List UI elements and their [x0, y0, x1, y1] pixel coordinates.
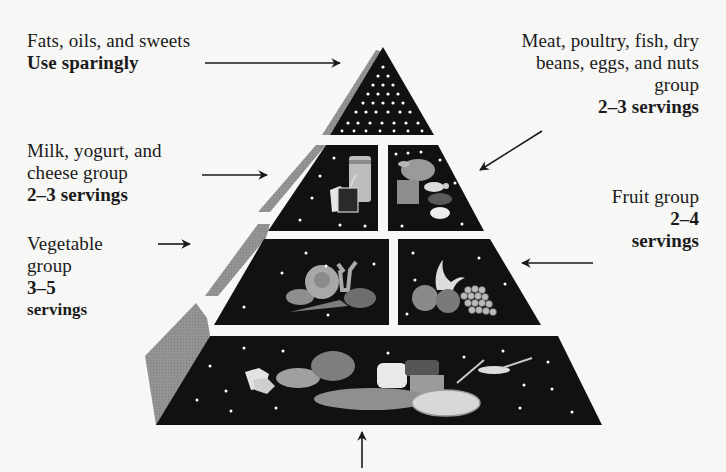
label-milk-serving: 2–3 servings	[27, 184, 162, 206]
label-milk: Milk, yogurt, and cheese group 2–3 servi…	[27, 140, 162, 206]
label-milk-line1: Milk, yogurt, and	[27, 140, 162, 162]
label-meat-line1: Meat, poultry, fish, dry	[522, 30, 699, 52]
label-vegetable-line1: Vegetable	[27, 233, 103, 255]
label-fruit-title: Fruit group	[612, 186, 699, 208]
label-meat-line2: beans, eggs, and nuts	[522, 52, 699, 74]
tier-bread	[156, 336, 602, 425]
label-meat: Meat, poultry, fish, dry beans, eggs, an…	[522, 30, 699, 118]
label-vegetable-serving-unit: servings	[27, 299, 103, 321]
tier-fats	[330, 47, 434, 135]
label-fruit: Fruit group 2–4 servings	[612, 186, 699, 252]
label-meat-serving: 2–3 servings	[522, 96, 699, 118]
label-vegetable: Vegetable group 3–5 servings	[27, 233, 103, 321]
label-vegetable-serving-count: 3–5	[27, 277, 103, 299]
label-fruit-serving-unit: servings	[612, 230, 699, 252]
label-fats-title: Fats, oils, and sweets	[27, 30, 190, 52]
label-vegetable-line2: group	[27, 255, 103, 277]
label-fruit-serving-count: 2–4	[612, 208, 699, 230]
tier-fruit	[398, 239, 541, 325]
label-meat-line3: group	[522, 74, 699, 96]
arrow-meat-icon	[480, 131, 542, 170]
label-fats-serving: Use sparingly	[27, 52, 190, 74]
label-fats: Fats, oils, and sweets Use sparingly	[27, 30, 190, 74]
tier-meat	[388, 145, 484, 231]
label-milk-line2: cheese group	[27, 162, 162, 184]
